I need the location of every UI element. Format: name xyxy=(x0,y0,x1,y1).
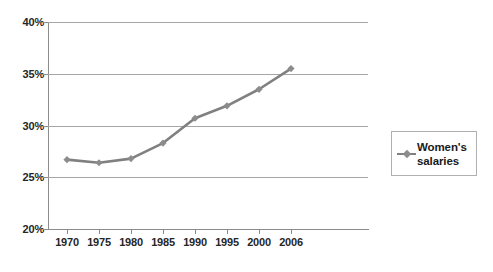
legend-label-line-2: salaries xyxy=(417,155,459,167)
line-chart: 40%35%30%25%20% 197019751980198519901995… xyxy=(0,0,493,272)
series-line-women-s-salaries xyxy=(67,69,291,163)
legend-label-womens-salaries: Women's salaries xyxy=(417,140,467,168)
data-point-marker xyxy=(63,156,70,163)
legend-swatch-womens-salaries xyxy=(397,148,416,160)
legend-label-line-1: Women's xyxy=(417,141,467,153)
data-point-marker xyxy=(95,159,102,166)
legend: Women's salaries xyxy=(391,131,477,176)
